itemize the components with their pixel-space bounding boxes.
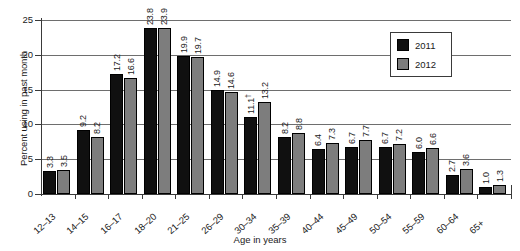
bar-2011-12–13: 3.3 <box>43 171 56 194</box>
x-tick-label: 50–54 <box>367 211 393 236</box>
bar-value-label: 13.2 <box>260 82 270 99</box>
legend-label-2011: 2011 <box>415 40 435 51</box>
bar-chart: Percent using in past month 0510152025 3… <box>0 0 520 251</box>
bar-group: 19.919.7 <box>175 20 209 194</box>
bar-value-label: 9.2 <box>78 115 88 127</box>
bar-2012-30–34: 13.2 <box>258 102 271 194</box>
bar-value-label: 8.2 <box>280 122 290 134</box>
x-tick-mark <box>377 194 378 199</box>
bar-2011-50–54: 6.7 <box>379 147 392 194</box>
bar-2012-45–49: 7.7 <box>359 140 372 194</box>
bar-value-label: 16.6 <box>126 59 136 76</box>
x-tick-label: 18–20 <box>132 211 158 236</box>
bar-2011-21–25: 19.9 <box>177 56 190 195</box>
y-tick-label: 20 <box>3 49 33 60</box>
y-tick-label: 25 <box>3 14 33 25</box>
x-tick-label: 40–44 <box>299 211 325 236</box>
x-tick-label: 45–49 <box>333 211 359 236</box>
legend-swatch-2012 <box>397 58 409 70</box>
x-tick-label: 35–39 <box>266 211 292 236</box>
bar-value-label: 7.7 <box>361 126 371 138</box>
x-tick-mark <box>410 194 411 199</box>
x-tick-mark <box>511 194 512 199</box>
bar-2012-55–59: 6.6 <box>426 148 439 194</box>
x-tick-label: 26–29 <box>199 211 225 236</box>
bar-2011-55–59: 6.0 <box>412 152 425 194</box>
bar-2012-35–39: 8.8 <box>292 133 305 194</box>
bar-group: 17.216.6 <box>108 20 142 194</box>
x-tick-mark <box>310 194 311 199</box>
bar-value-label: 6.0 <box>414 137 424 149</box>
x-tick-label: 21–25 <box>165 211 191 236</box>
bar-2012-50–54: 7.2 <box>393 144 406 194</box>
x-tick-label: 14–15 <box>64 211 90 236</box>
bar-value-label: 19.9 <box>179 36 189 53</box>
bar-value-label: 3.5 <box>59 155 69 167</box>
x-tick-label: 65+ <box>467 218 486 237</box>
x-tick-label: 55–59 <box>400 211 426 236</box>
x-tick-label: 16–17 <box>98 211 124 236</box>
bar-value-label: 3.6 <box>461 154 471 166</box>
bar-2011-45–49: 6.7 <box>345 147 358 194</box>
bar-value-label: 11.1† <box>244 94 256 114</box>
x-tick-mark <box>477 194 478 199</box>
y-tick-label: 0 <box>3 188 33 199</box>
x-tick-mark <box>242 194 243 199</box>
bar-2011-40–44: 6.4 <box>312 149 325 194</box>
bar-value-label: 8.2 <box>92 122 102 134</box>
bar-2012-21–25: 19.7 <box>191 57 204 194</box>
bar-group: 9.28.2 <box>75 20 109 194</box>
bar-group: 14.914.6 <box>209 20 243 194</box>
bar-value-label: 7.2 <box>394 129 404 141</box>
bar-2011-35–39: 8.2 <box>278 137 291 194</box>
x-tick-mark <box>276 194 277 199</box>
bar-2012-65+: 1.3 <box>493 185 506 194</box>
x-tick-mark <box>209 194 210 199</box>
bar-value-label: 23.8 <box>145 9 155 26</box>
bar-value-label: 6.6 <box>428 133 438 145</box>
bar-group: 6.47.3 <box>310 20 344 194</box>
x-tick-mark <box>343 194 344 199</box>
bar-group: 23.823.9 <box>142 20 176 194</box>
y-tick-label: 15 <box>3 84 33 95</box>
bar-group: 1.01.3 <box>477 20 511 194</box>
bar-2011-65+: 1.0 <box>479 187 492 194</box>
bar-value-label: 2.7 <box>447 160 457 172</box>
bar-value-label: 6.7 <box>380 132 390 144</box>
legend-item-2011: 2011 <box>397 39 435 51</box>
x-tick-label: 30–34 <box>232 211 258 236</box>
x-tick-mark <box>175 194 176 199</box>
bar-value-label: 14.9 <box>212 71 222 88</box>
bar-2011-16–17: 17.2 <box>110 74 123 194</box>
bar-group: 6.77.7 <box>343 20 377 194</box>
bar-value-label: 14.6 <box>226 73 236 90</box>
y-tick-label: 10 <box>3 118 33 129</box>
x-tick-label: 12–13 <box>31 211 57 236</box>
legend: 2011 2012 <box>390 32 452 77</box>
bar-value-label: 1.0 <box>481 172 491 184</box>
bar-value-label: 8.8 <box>294 118 304 130</box>
x-axis-title: Age in years <box>180 234 340 245</box>
bar-2012-26–29: 14.6 <box>225 92 238 194</box>
bar-2011-30–34: 11.1† <box>244 117 257 194</box>
bar-2012-40–44: 7.3 <box>326 143 339 194</box>
bar-2011-26–29: 14.9 <box>211 90 224 194</box>
x-tick-mark <box>444 194 445 199</box>
bar-value-label: 3.3 <box>45 156 55 168</box>
x-tick-mark <box>108 194 109 199</box>
bar-2012-12–13: 3.5 <box>57 170 70 194</box>
bar-2012-18–20: 23.9 <box>158 28 171 194</box>
bar-value-label: 17.2 <box>112 55 122 72</box>
bar-group: 8.28.8 <box>276 20 310 194</box>
legend-swatch-2011 <box>397 39 409 51</box>
bar-2012-60–64: 3.6 <box>460 169 473 194</box>
legend-item-2012: 2012 <box>397 58 436 70</box>
legend-label-2012: 2012 <box>415 59 436 70</box>
bar-2011-14–15: 9.2 <box>77 130 90 194</box>
bar-2012-16–17: 16.6 <box>124 78 137 194</box>
x-tick-mark <box>75 194 76 199</box>
x-axis-labels: 12–1314–1516–1718–2021–2526–2930–3435–39… <box>41 194 511 234</box>
bar-group: 3.33.5 <box>41 20 75 194</box>
bar-value-label: 23.9 <box>159 8 169 25</box>
bar-value-label: 19.7 <box>193 37 203 54</box>
